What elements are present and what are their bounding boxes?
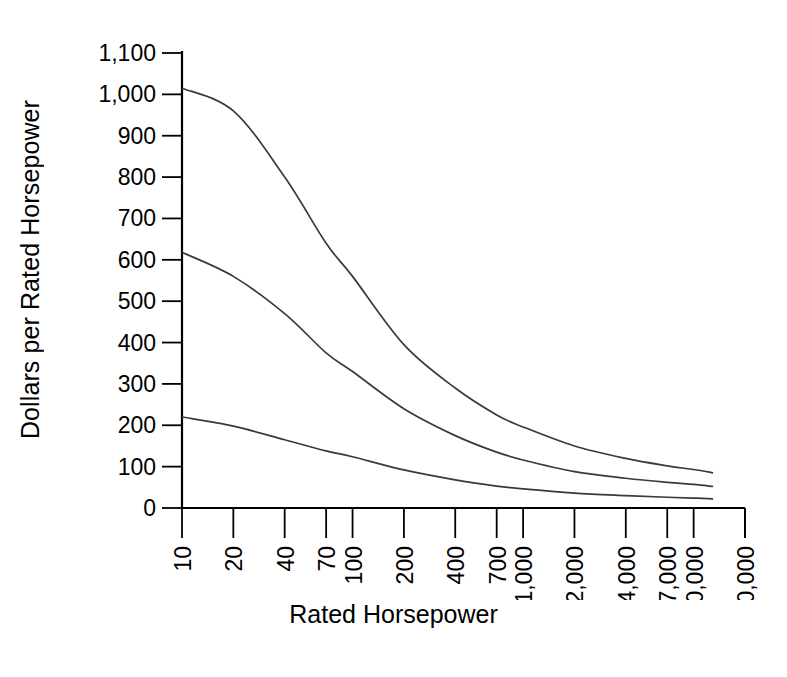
x-tick-label: 40 — [273, 546, 299, 572]
x-tick-label: 7,000 — [655, 546, 681, 600]
y-tick-label: 500 — [118, 288, 156, 314]
x-tick-label: 10 — [170, 546, 196, 572]
x-tick-label: 1,000 — [511, 546, 537, 600]
y-tick-label: 900 — [118, 123, 156, 149]
curve-upper-curve — [182, 88, 713, 473]
x-tick-label: 700 — [485, 546, 511, 584]
y-tick-label: 0 — [143, 495, 156, 521]
x-tick-label: 2,000 — [562, 546, 588, 600]
y-tick-label: 300 — [118, 371, 156, 397]
y-tick-label: 200 — [118, 412, 156, 438]
y-tick-label: 400 — [118, 330, 156, 356]
x-tick-label: 20 — [221, 546, 247, 572]
x-tick-label: 200 — [392, 546, 418, 584]
y-tick-label-group: 01002003004005006007008009001,0001,100 — [98, 40, 156, 521]
curve-lower-curve — [182, 417, 713, 499]
x-tick-label: 400 — [443, 546, 469, 584]
plot-area: 01002003004005006007008009001,0001,100 1… — [0, 0, 787, 600]
y-tick-label: 1,100 — [98, 40, 156, 66]
x-tick-label: 10,000 — [682, 546, 708, 600]
y-tick-label: 600 — [118, 247, 156, 273]
x-axis-title-text: Rated Horsepower — [289, 600, 497, 628]
curve-middle-curve — [182, 252, 713, 486]
x-axis-title: Rated Horsepower — [0, 600, 787, 629]
chart-figure: Dollars per Rated Horsepower 01002003004… — [0, 0, 787, 677]
y-tick-label: 100 — [118, 454, 156, 480]
y-tick-mark-group — [162, 53, 182, 508]
x-tick-mark-group — [182, 508, 745, 538]
y-tick-label: 700 — [118, 205, 156, 231]
x-tick-label: 4,000 — [614, 546, 640, 600]
y-tick-label: 800 — [118, 164, 156, 190]
data-curves — [182, 88, 713, 499]
x-tick-label: 20,000 — [733, 546, 759, 600]
x-tick-label-group: 102040701002004007001,0002,0004,0007,000… — [170, 546, 759, 600]
y-tick-label: 1,000 — [98, 81, 156, 107]
x-tick-label: 70 — [314, 546, 340, 572]
x-tick-label: 100 — [341, 546, 367, 584]
